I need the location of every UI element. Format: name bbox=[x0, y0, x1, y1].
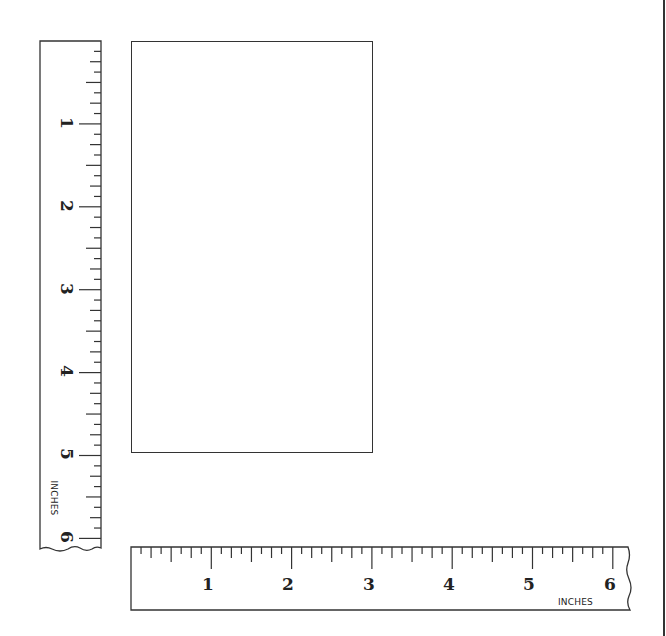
horizontal-ruler-label-6: 6 bbox=[600, 574, 620, 594]
horizontal-ruler-label-1: 1 bbox=[198, 574, 218, 594]
horizontal-ruler-units: INCHES bbox=[558, 597, 593, 607]
horizontal-ruler-outline bbox=[0, 0, 666, 636]
horizontal-ruler-label-4: 4 bbox=[439, 574, 459, 594]
horizontal-ruler-label-3: 3 bbox=[359, 574, 379, 594]
horizontal-ruler bbox=[0, 0, 666, 636]
horizontal-ruler-label-5: 5 bbox=[519, 574, 539, 594]
horizontal-ruler-label-2: 2 bbox=[278, 574, 298, 594]
